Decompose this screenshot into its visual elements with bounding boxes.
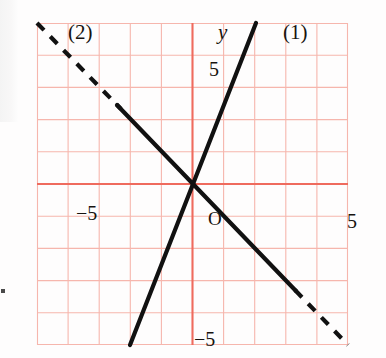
curve-2-callout: (2) — [68, 22, 93, 43]
x-tick-label-5: 5 — [347, 211, 357, 231]
line-2-dashed-lower — [295, 290, 348, 345]
x-tick-label-neg5: −5 — [76, 203, 97, 223]
y-tick-label-neg5: −5 — [194, 329, 215, 349]
scan-artifact-smudge — [0, 0, 18, 122]
figure-canvas: (2) (1) y x 5 −5 5 −5 O — [0, 0, 386, 358]
origin-label: O — [208, 209, 222, 228]
y-tick-label-5: 5 — [209, 59, 219, 79]
curve-1-callout: (1) — [283, 22, 308, 43]
line-2-solid — [117, 105, 296, 291]
scan-artifact-dot — [1, 289, 5, 293]
y-axis-label: y — [218, 22, 227, 43]
plotted-lines — [37, 23, 348, 345]
graph-plate: (2) (1) y x 5 −5 5 −5 O — [37, 23, 348, 345]
